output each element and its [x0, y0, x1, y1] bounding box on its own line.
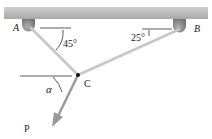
force-P-arrowhead [52, 112, 63, 127]
diagram-graphic [0, 0, 212, 139]
ceiling-beam [4, 7, 208, 19]
angle-arc-C [53, 77, 62, 92]
force-P-line [58, 75, 78, 116]
label-angle-45: 45° [63, 39, 77, 49]
label-P: P [24, 124, 30, 134]
diagram-canvas: A B C P 45° 25° α [0, 0, 212, 139]
label-angle-alpha: α [46, 84, 52, 95]
cable-AC [30, 27, 78, 75]
label-C: C [84, 79, 91, 89]
label-angle-25: 25° [131, 33, 145, 43]
cable-BC [78, 29, 180, 75]
node-C [76, 73, 80, 77]
label-A: A [13, 23, 19, 33]
label-B: B [194, 24, 200, 34]
